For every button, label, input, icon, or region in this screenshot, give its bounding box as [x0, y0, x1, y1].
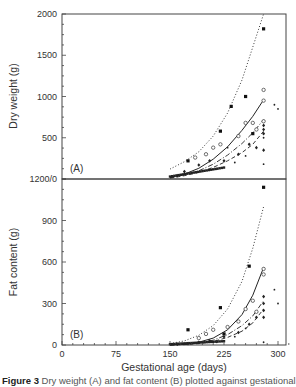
- y-tick-label: 300: [42, 299, 57, 309]
- data-point-diamond: [262, 128, 265, 132]
- data-point-cluster: [216, 167, 218, 169]
- panel-label-b: (B): [70, 329, 83, 340]
- data-point-cluster: [186, 172, 188, 174]
- fit-line-dotted: [170, 14, 264, 169]
- data-point-square: [244, 95, 247, 98]
- data-point-circle: [226, 325, 229, 328]
- data-point-dot: [277, 303, 279, 305]
- data-point-dot: [245, 155, 247, 157]
- data-point-circle: [212, 146, 215, 149]
- y-axis-title-dry-weight: Dry weight (g): [7, 63, 19, 128]
- data-point-dot: [234, 162, 236, 164]
- data-point-dot: [234, 336, 236, 338]
- y-tick-label: 0: [52, 340, 57, 350]
- data-point-cluster: [218, 340, 220, 342]
- data-point-cluster: [177, 174, 179, 176]
- data-point-square: [186, 328, 189, 331]
- data-point-circle: [255, 310, 258, 313]
- data-point-circle: [262, 120, 265, 123]
- data-point-circle: [204, 332, 207, 335]
- data-point-square: [248, 265, 251, 268]
- data-point-cluster: [210, 169, 212, 171]
- data-point-cluster: [195, 342, 197, 344]
- data-point-circle: [219, 143, 222, 146]
- caption-text: Dry weight (A) and fat content (B) plott…: [42, 375, 296, 386]
- data-point-cluster: [210, 341, 212, 343]
- data-point-circle: [262, 88, 265, 91]
- data-point-diamond: [248, 322, 251, 326]
- data-point-dot: [263, 341, 265, 343]
- data-point-circle: [212, 328, 215, 331]
- data-point-cluster: [175, 343, 177, 345]
- data-point-cluster: [173, 343, 175, 345]
- y-tick-label: 600: [42, 257, 57, 267]
- data-point-cluster: [214, 340, 216, 342]
- data-point-square: [262, 186, 265, 189]
- data-point-square: [219, 130, 222, 133]
- panel-a-dry-weight: 1200/0500100015002000: [29, 9, 286, 184]
- data-point-diamond: [262, 316, 265, 320]
- data-point-diamond: [262, 309, 265, 313]
- data-point-diamond: [223, 159, 226, 163]
- data-point-cluster: [190, 172, 192, 174]
- data-point-cluster: [186, 342, 188, 344]
- data-point-circle: [251, 121, 254, 124]
- panel-b-fat-content: 0300600900: [42, 179, 286, 350]
- x-tick-label: 0: [59, 349, 64, 359]
- y-axis-title-fat-content: Fat content (g): [7, 228, 19, 296]
- data-point-square: [251, 132, 254, 135]
- data-point-cluster: [184, 342, 186, 344]
- data-point-cluster: [199, 170, 201, 172]
- y-tick-label: 1200/0: [29, 174, 57, 184]
- data-point-cluster: [199, 341, 201, 343]
- data-point-cluster: [188, 172, 190, 174]
- data-point-cluster: [203, 341, 205, 343]
- data-point-diamond: [262, 295, 265, 299]
- x-tick-label: 225: [216, 349, 231, 359]
- figure-caption: Figure 3 Dry weight (A) and fat content …: [2, 375, 296, 386]
- data-point-circle: [237, 134, 240, 137]
- plot-frame: [62, 179, 286, 345]
- data-point-cluster: [221, 340, 223, 342]
- data-point-cluster: [223, 166, 225, 168]
- data-point-cluster: [188, 342, 190, 344]
- data-point-cluster: [171, 343, 173, 345]
- data-point-cluster: [212, 168, 214, 170]
- data-point-circle: [262, 267, 265, 270]
- data-point-circle: [204, 153, 207, 156]
- caption-label: Figure 3: [2, 375, 39, 386]
- data-point-cluster: [201, 170, 203, 172]
- x-tick-label: 150: [162, 349, 177, 359]
- data-point-cluster: [193, 171, 195, 173]
- fit-line-dashed: [170, 309, 264, 345]
- data-point-dot: [274, 289, 276, 291]
- data-point-cluster: [171, 175, 173, 177]
- data-point-cluster: [216, 340, 218, 342]
- data-point-cluster: [184, 173, 186, 175]
- data-point-cluster: [218, 167, 220, 169]
- data-point-dot: [277, 108, 279, 110]
- data-point-cluster: [203, 170, 205, 172]
- data-point-dot: [227, 147, 229, 149]
- data-point-circle: [262, 273, 265, 276]
- data-point-dot: [245, 328, 247, 330]
- data-point-cluster: [169, 175, 171, 177]
- x-tick-label: 300: [270, 349, 285, 359]
- data-point-cluster: [206, 341, 208, 343]
- data-point-cluster: [175, 174, 177, 176]
- data-point-diamond: [262, 148, 265, 152]
- data-point-cluster: [182, 173, 184, 175]
- data-point-cluster: [221, 167, 223, 169]
- data-point-diamond: [255, 316, 258, 320]
- plot-frame: [62, 14, 286, 179]
- y-tick-label: 900: [42, 216, 57, 226]
- data-point-cluster: [197, 341, 199, 343]
- fit-line-solid: [170, 268, 264, 346]
- data-point-cluster: [193, 342, 195, 344]
- data-point-cluster: [208, 169, 210, 171]
- data-point-cluster: [214, 168, 216, 170]
- data-point-cluster: [182, 342, 184, 344]
- data-point-cluster: [212, 341, 214, 343]
- data-point-dot: [263, 137, 265, 139]
- data-point-cluster: [208, 341, 210, 343]
